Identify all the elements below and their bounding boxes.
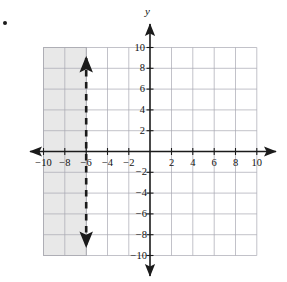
x-tick-label: −4 (102, 158, 113, 169)
x-tick-label: 2 (169, 158, 174, 169)
y-tick-label: −4 (136, 188, 147, 199)
y-tick-label: 6 (140, 84, 145, 95)
x-tick-label: 4 (190, 158, 195, 169)
y-tick-label: 8 (140, 63, 145, 74)
x-tick-label: 8 (233, 158, 238, 169)
x-tick-label: −2 (123, 158, 134, 169)
y-tick-label: 4 (140, 105, 145, 116)
x-tick-label: 6 (212, 158, 217, 169)
y-tick-label: 2 (140, 125, 145, 136)
y-tick-label: −6 (136, 209, 147, 220)
x-tick-label: −10 (35, 158, 51, 169)
y-tick-label: −2 (136, 167, 147, 178)
y-tick-label: −10 (131, 250, 147, 261)
y-tick-label: 10 (135, 42, 146, 53)
x-tick-label: −6 (81, 158, 92, 169)
x-tick-label: −8 (59, 158, 70, 169)
x-tick-label: 10 (252, 158, 263, 169)
y-tick-label: −8 (136, 229, 147, 240)
graph-figure: y (0, 0, 287, 282)
